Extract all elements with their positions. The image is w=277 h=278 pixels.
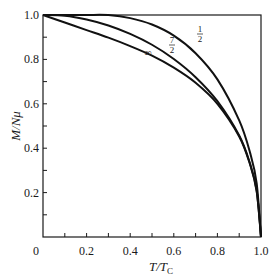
x-axis-ticks: [65, 233, 239, 237]
curve-j-infinity: [43, 15, 261, 237]
x-tick-label: 0.4: [123, 244, 138, 258]
y-tick-label: 0.4: [24, 141, 39, 155]
magnetization-chart: 0.20.40.60.81.0 0.20.40.60.81.0 0 1 2 7 …: [0, 0, 277, 278]
y-tick-label: 0.2: [24, 186, 39, 200]
y-axis-title: M/Nμ: [8, 111, 23, 142]
y-tick-label: 1.0: [24, 8, 39, 22]
svg-text:2: 2: [198, 34, 203, 44]
plot-frame: [43, 15, 261, 237]
svg-text:7: 7: [170, 35, 175, 45]
y-axis-tick-labels: 0.20.40.60.81.0: [24, 8, 39, 200]
svg-text:2: 2: [170, 45, 175, 55]
svg-text:1: 1: [198, 24, 203, 34]
x-axis-tick-labels: 0.20.40.60.81.0: [79, 244, 268, 258]
curve-label-infinity: ∞: [144, 47, 151, 58]
curve-j-1-over-2: [43, 15, 261, 237]
origin-label: 0: [33, 244, 39, 258]
x-tick-label: 0.8: [210, 244, 225, 258]
y-tick-label: 0.8: [24, 52, 39, 66]
curve-label-seven-half: 7 2: [169, 35, 175, 55]
x-tick-label: 1.0: [254, 244, 269, 258]
curves: [43, 15, 261, 237]
y-tick-label: 0.6: [24, 97, 39, 111]
curve-j-7-over-2: [43, 15, 261, 237]
x-axis-title: T/TC: [149, 259, 173, 276]
x-tick-label: 0.2: [79, 244, 94, 258]
curve-label-half: 1 2: [197, 24, 203, 44]
x-tick-label: 0.6: [166, 244, 181, 258]
